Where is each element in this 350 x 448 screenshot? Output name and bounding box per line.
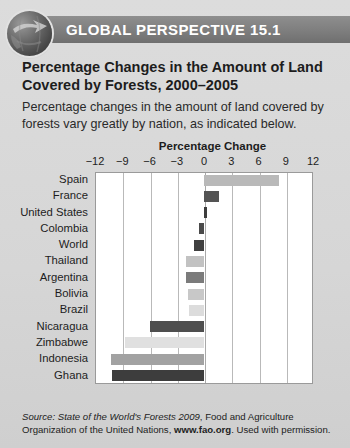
bar-ghana bbox=[112, 370, 204, 381]
bar-colombia bbox=[199, 223, 204, 234]
category-label-nicaragua: Nicaragua bbox=[0, 320, 88, 332]
banner-title: GLOBAL PERSPECTIVE 15.1 bbox=[66, 21, 281, 38]
x-tick-0: 0 bbox=[201, 155, 207, 167]
bar-spain bbox=[204, 175, 279, 186]
x-tick--6: −6 bbox=[143, 155, 156, 167]
bar-row: Indonesia bbox=[0, 351, 350, 367]
bar-row: Zimbabwe bbox=[0, 335, 350, 351]
category-label-united-states: United States bbox=[0, 206, 88, 218]
bar-argentina bbox=[186, 272, 204, 283]
bar-france bbox=[204, 191, 219, 202]
x-tick--3: −3 bbox=[170, 155, 183, 167]
bar-row: France bbox=[0, 188, 350, 204]
x-tick-9: 9 bbox=[283, 155, 289, 167]
bar-bolivia bbox=[188, 289, 204, 300]
bar-world bbox=[194, 240, 204, 251]
category-label-france: France bbox=[0, 189, 88, 201]
bar-row: Nicaragua bbox=[0, 319, 350, 335]
bar-thailand bbox=[186, 256, 204, 267]
source-prefix: Source: bbox=[22, 411, 55, 422]
chart-title: Percentage Change bbox=[0, 140, 350, 152]
category-label-bolivia: Bolivia bbox=[0, 287, 88, 299]
global-perspective-box: GLOBAL PERSPECTIVE 15.1 Percentage Chang… bbox=[0, 0, 350, 448]
category-label-argentina: Argentina bbox=[0, 271, 88, 283]
category-label-spain: Spain bbox=[0, 173, 88, 185]
category-label-indonesia: Indonesia bbox=[0, 352, 88, 364]
globe-arrow-icon bbox=[7, 11, 52, 56]
bar-row: Argentina bbox=[0, 270, 350, 286]
bar-row: World bbox=[0, 237, 350, 253]
source-note: Source: State of the World's Forests 200… bbox=[22, 410, 340, 436]
bar-row: Ghana bbox=[0, 368, 350, 384]
bar-zimbabwe bbox=[125, 337, 204, 348]
x-tick-12: 12 bbox=[307, 155, 319, 167]
category-label-thailand: Thailand bbox=[0, 254, 88, 266]
source-work: State of the World's Forests 2009 bbox=[58, 411, 200, 422]
category-label-brazil: Brazil bbox=[0, 303, 88, 315]
category-label-colombia: Colombia bbox=[0, 222, 88, 234]
bar-indonesia bbox=[111, 354, 204, 365]
category-label-zimbabwe: Zimbabwe bbox=[0, 336, 88, 348]
source-suffix: . Used with permission. bbox=[231, 424, 330, 435]
bar-row: Thailand bbox=[0, 253, 350, 269]
category-label-world: World bbox=[0, 238, 88, 250]
box-title: Percentage Changes in the Amount of Land… bbox=[22, 58, 334, 94]
bar-row: United States bbox=[0, 205, 350, 221]
bar-united-states bbox=[204, 207, 207, 218]
box-header: GLOBAL PERSPECTIVE 15.1 bbox=[0, 10, 350, 50]
bar-rows: SpainFranceUnited StatesColombiaWorldTha… bbox=[0, 172, 350, 384]
bar-row: Brazil bbox=[0, 302, 350, 318]
forest-change-bar-chart: Percentage Change −12−9−6−3036912 SpainF… bbox=[0, 140, 350, 402]
bar-row: Spain bbox=[0, 172, 350, 188]
bar-brazil bbox=[189, 305, 204, 316]
bar-row: Colombia bbox=[0, 221, 350, 237]
x-tick-6: 6 bbox=[255, 155, 261, 167]
x-tick--12: −12 bbox=[86, 155, 105, 167]
source-url[interactable]: www.fao.org bbox=[174, 424, 231, 435]
bar-row: Bolivia bbox=[0, 286, 350, 302]
bar-nicaragua bbox=[150, 321, 205, 332]
box-intro-text: Percentage changes in the amount of land… bbox=[22, 99, 340, 133]
x-axis-ticks: −12−9−6−3036912 bbox=[95, 155, 313, 170]
x-tick-3: 3 bbox=[228, 155, 234, 167]
x-tick--9: −9 bbox=[116, 155, 129, 167]
category-label-ghana: Ghana bbox=[0, 369, 88, 381]
